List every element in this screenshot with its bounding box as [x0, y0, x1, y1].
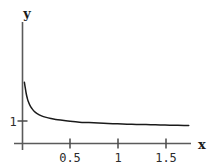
x-tick-label-2: 1.5 — [155, 151, 177, 165]
y-axis-label: y — [22, 6, 31, 21]
x-tick-label-0: 0.5 — [59, 151, 81, 165]
chart-container: 0.5 1 1.5 1 y x — [0, 0, 212, 167]
plot-area: 0.5 1 1.5 1 y x — [0, 0, 212, 167]
y-tick-label-0: 1 — [9, 115, 16, 129]
data-curve — [24, 82, 188, 125]
x-tick-label-1: 1 — [114, 151, 121, 165]
x-axis-label: x — [198, 137, 206, 152]
